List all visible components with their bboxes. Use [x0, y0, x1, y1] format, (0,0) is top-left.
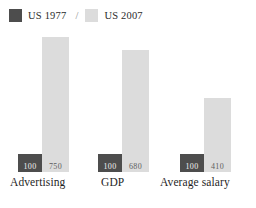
bar-us-1977-advertising: 100: [18, 154, 42, 172]
bar-us-2007-gdp: 680: [122, 50, 149, 172]
bar-chart: US 1977 / US 2007 100 750 100: [0, 0, 256, 208]
bar-group-average-salary: 100 410: [180, 28, 234, 172]
legend-swatch-dark-icon: [9, 9, 22, 22]
legend-label-us-2007: US 2007: [104, 10, 142, 21]
bar-group-advertising: 100 750: [18, 28, 72, 172]
category-label-average-salary: Average salary: [160, 176, 230, 188]
chart-legend: US 1977 / US 2007: [9, 7, 143, 23]
legend-swatch-light-icon: [85, 9, 98, 22]
bar-group-gdp: 100 680: [98, 28, 152, 172]
bar-value-us-1977-gdp: 100: [98, 162, 122, 171]
legend-item-us-1977: US 1977: [9, 9, 66, 22]
legend-item-us-2007: US 2007: [85, 9, 142, 22]
legend-separator: /: [75, 10, 78, 21]
bar-value-us-2007-advertising: 750: [42, 162, 69, 171]
category-label-gdp: GDP: [101, 176, 124, 188]
plot-area: 100 750 100 680 100: [0, 28, 256, 172]
bar-value-us-1977-average-salary: 100: [180, 162, 204, 171]
bar-us-2007-average-salary: 410: [204, 98, 231, 172]
legend-label-us-1977: US 1977: [28, 10, 66, 21]
category-axis: Advertising GDP Average salary: [0, 176, 256, 200]
bar-value-us-2007-average-salary: 410: [204, 162, 231, 171]
bar-us-1977-gdp: 100: [98, 154, 122, 172]
bar-us-2007-advertising: 750: [42, 37, 69, 172]
category-label-advertising: Advertising: [10, 176, 65, 188]
bar-us-1977-average-salary: 100: [180, 154, 204, 172]
bar-value-us-1977-advertising: 100: [18, 162, 42, 171]
bar-value-us-2007-gdp: 680: [122, 162, 149, 171]
